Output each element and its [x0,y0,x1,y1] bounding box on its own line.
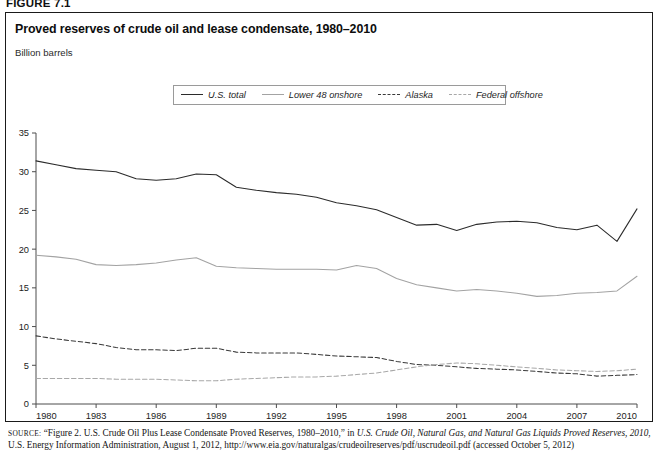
chart-title: Proved reserves of crude oil and lease c… [15,22,377,36]
legend-item-lower-48-onshore: Lower 48 onshore [262,90,363,100]
figure-number: FIGURE 7.1 [6,0,71,9]
source-note: SOURCE: “Figure 2. U.S. Crude Oil Plus L… [8,428,654,451]
source-italic-title: U.S. Crude Oil, Natural Gas, and Natural… [357,428,648,438]
figure-panel [5,12,653,422]
legend-item-federal-offshore: Federal offshore [449,90,543,100]
legend-label-federal-offshore: Federal offshore [476,90,543,100]
legend-item-alaska: Alaska [378,90,433,100]
legend-label-lower-48-onshore: Lower 48 onshore [289,90,363,100]
figure-container: FIGURE 7.1 Proved reserves of crude oil … [0,0,662,464]
legend-item-us-total: U.S. total [181,90,246,100]
chart-legend: U.S. total Lower 48 onshore Alaska Feder… [173,85,506,105]
legend-label-alaska: Alaska [405,90,433,100]
legend-label-us-total: U.S. total [208,90,246,100]
source-prefix: SOURCE: [8,429,41,438]
chart-subtitle: Billion barrels [15,47,73,58]
source-text-1: “Figure 2. U.S. Crude Oil Plus Lease Con… [41,428,357,438]
